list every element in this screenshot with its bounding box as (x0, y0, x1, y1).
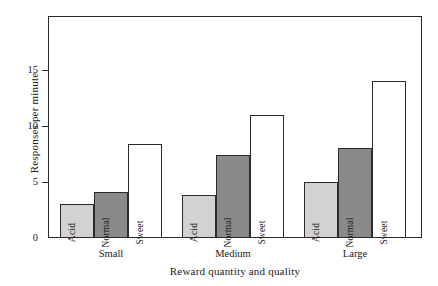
bar-medium-acid: Acid (182, 195, 216, 238)
bar-label-small-sweet: Sweet (136, 220, 146, 244)
y-tick-label-5: 5 (12, 177, 38, 188)
bar-label-medium-normal: Normal (224, 217, 234, 247)
bars-layer: Acid Normal Sweet Acid Normal Sweet Acid… (48, 16, 422, 238)
bar-label-small-normal: Normal (102, 217, 112, 247)
x-group-label-large: Large (300, 248, 410, 259)
bar-label-large-sweet: Sweet (380, 220, 390, 244)
bar-large-sweet: Sweet (372, 81, 406, 238)
bar-label-large-acid: Acid (312, 222, 322, 241)
y-tick-label-0: 0 (12, 233, 38, 244)
bar-medium-normal: Normal (216, 155, 250, 238)
bar-label-medium-acid: Acid (190, 222, 200, 241)
bar-large-normal: Normal (338, 148, 372, 238)
bar-label-large-normal: Normal (346, 217, 356, 247)
bar-label-small-acid: Acid (68, 222, 78, 241)
x-axis-title: Reward quantity and quality (48, 265, 422, 277)
bar-small-acid: Acid (60, 204, 94, 238)
bar-chart: Responses per minute 0 5 10 15 Acid Norm… (0, 0, 438, 286)
x-group-label-small: Small (56, 248, 166, 259)
bar-small-normal: Normal (94, 192, 128, 238)
bar-label-medium-sweet: Sweet (258, 220, 268, 244)
bar-medium-sweet: Sweet (250, 115, 284, 238)
y-tick-label-10: 10 (12, 121, 38, 132)
y-tick-label-15: 15 (12, 65, 38, 76)
bar-large-acid: Acid (304, 182, 338, 238)
bar-small-sweet: Sweet (128, 144, 162, 238)
x-group-label-medium: Medium (178, 248, 288, 259)
